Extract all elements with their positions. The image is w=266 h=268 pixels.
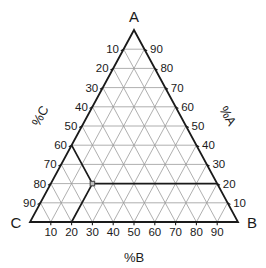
tick-label-b-90: 90 [211,226,224,238]
ternary-plot-svg: ABC1020304050607080901020304050607080909… [0,0,266,268]
gridline-b-90 [217,203,227,222]
tick-label-c-10: 10 [106,43,119,55]
tick-label-a-30: 30 [212,158,225,170]
tick-label-a-80: 80 [160,62,173,74]
tick-label-b-80: 80 [190,226,203,238]
vertex-label-c: C [11,214,22,231]
gridline-c-90 [40,203,50,222]
tick-label-c-70: 70 [44,158,57,170]
tick-label-c-90: 90 [23,197,36,209]
tick-label-c-80: 80 [33,178,46,190]
tick-label-b-70: 70 [169,226,182,238]
tick-label-c-20: 20 [96,62,109,74]
axis-title-a: %A [216,103,239,128]
tick-marks-layer [38,49,231,225]
grid-layer [40,49,227,222]
tick-label-b-40: 40 [107,226,120,238]
tick-label-b-30: 30 [86,226,99,238]
tick-label-b-20: 20 [65,226,78,238]
tick-label-b-10: 10 [44,226,57,238]
data-point-marker[interactable] [90,181,94,185]
gridline-b-30 [92,88,165,222]
tick-label-a-40: 40 [202,139,215,151]
vertex-label-b: B [247,214,257,231]
tick-label-a-20: 20 [223,178,236,190]
tick-label-a-50: 50 [192,120,205,132]
axis-title-b: %B [124,250,144,265]
tick-label-c-40: 40 [75,101,88,113]
tick-label-a-70: 70 [171,82,184,94]
data-point-layer[interactable] [90,181,94,185]
tick-label-a-60: 60 [181,101,194,113]
vertex-label-a: A [129,8,139,25]
ternary-diagram: ABC1020304050607080901020304050607080909… [0,0,266,268]
labels-layer: ABC1020304050607080901020304050607080909… [11,8,257,265]
data-point-square[interactable] [90,181,94,185]
gridline-c-10 [124,49,218,222]
tick-label-a-90: 90 [150,43,163,55]
tick-label-c-60: 60 [54,139,67,151]
tick-label-a-10: 10 [233,197,246,209]
gridline-b-70 [176,164,207,222]
gridline-c-30 [103,88,176,222]
tick-label-b-50: 50 [128,226,141,238]
axis-title-c: %C [28,103,51,129]
tick-label-c-30: 30 [85,82,98,94]
tick-label-b-60: 60 [148,226,161,238]
gridline-c-50 [82,126,134,222]
gridline-b-50 [134,126,186,222]
gridline-b-10 [51,49,145,222]
tick-label-c-50: 50 [65,120,78,132]
